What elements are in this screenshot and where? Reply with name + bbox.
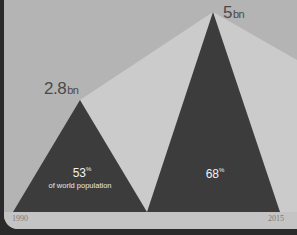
value-1990-unit: bn	[67, 84, 78, 96]
year-start: 1990	[12, 214, 28, 223]
pct-2015-symbol: %	[219, 167, 224, 173]
pct-2015: 68%	[200, 167, 230, 181]
value-2015: 5bn	[223, 3, 244, 23]
value-1990-number: 2.8	[44, 79, 66, 98]
pct-1990-symbol: %	[86, 166, 91, 172]
pct-2015-number: 68	[206, 167, 219, 181]
pct-1990: 53%	[67, 166, 97, 180]
pct-1990-caption: of world population	[40, 181, 120, 190]
pct-1990-number: 53	[73, 166, 86, 180]
infographic-panel: 2.8bn 5bn 53% of world population 68% 19…	[4, 0, 297, 229]
triangle-chart	[4, 0, 297, 229]
value-2015-number: 5	[223, 3, 232, 22]
value-2015-unit: bn	[233, 8, 244, 20]
year-end: 2015	[268, 214, 284, 223]
value-1990: 2.8bn	[44, 79, 78, 99]
baseline-strip	[4, 212, 297, 229]
